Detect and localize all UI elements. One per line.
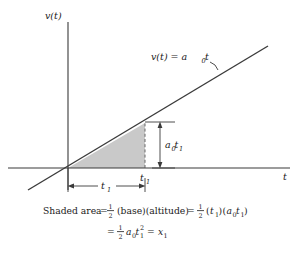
caption-line-2: = 1 2 a 0 t 1 2 = x 1 (107, 224, 168, 241)
svg-text:1: 1 (140, 232, 144, 240)
equation-leader-line (210, 62, 218, 70)
svg-text:1: 1 (179, 145, 183, 153)
svg-text:=: = (100, 205, 108, 216)
svg-text:1: 1 (118, 224, 122, 232)
svg-text:2: 2 (140, 224, 144, 232)
line-equation-label: v(t)=a 0 t (151, 51, 218, 70)
caption-fraction-half-1: 1 2 (107, 203, 114, 220)
svg-text:t: t (136, 226, 140, 237)
svg-text:=: = (147, 226, 155, 237)
svg-text:t: t (210, 205, 214, 216)
svg-text:v(t)=a: v(t)=a (151, 51, 188, 62)
velocity-time-diagram: v(t) t t 1 v(t)=a 0 t (0, 0, 307, 256)
svg-text:a: a (165, 139, 171, 150)
svg-text:a: a (126, 226, 131, 237)
svg-text:Shaded area: Shaded area (43, 205, 102, 216)
svg-text:t: t (205, 51, 209, 62)
caption-line-1: Shaded area = 1 2 (base)(altitude) = 1 2… (43, 203, 248, 220)
svg-text:1: 1 (108, 203, 112, 211)
shaded-triangle-area (68, 123, 145, 168)
svg-text:=: = (107, 226, 115, 237)
horizontal-measure-label: t 1 (98, 178, 116, 194)
svg-text:1: 1 (107, 186, 111, 194)
svg-text:1: 1 (146, 178, 150, 186)
caption-fraction-half-2: 1 2 (197, 203, 204, 220)
svg-text:t: t (101, 180, 105, 191)
svg-text:t: t (140, 172, 144, 183)
svg-text:2: 2 (198, 212, 202, 220)
svg-text:(base)(altitude): (base)(altitude) (117, 205, 189, 216)
svg-text:2: 2 (108, 212, 112, 220)
svg-text:1: 1 (164, 232, 168, 240)
svg-text:): ) (244, 205, 248, 216)
svg-text:t: t (236, 205, 240, 216)
x-axis-label: t (283, 171, 287, 182)
figure-container: v(t) t t 1 v(t)=a 0 t (0, 0, 307, 256)
caption-fraction-half-3: 1 2 (117, 224, 124, 241)
svg-text:t: t (175, 139, 179, 150)
svg-text:2: 2 (118, 233, 122, 241)
vertical-measure-label: a 0 t 1 (165, 139, 183, 153)
svg-text:a: a (227, 205, 232, 216)
y-axis-label: v(t) (45, 10, 62, 21)
svg-text:=: = (187, 205, 195, 216)
svg-text:1: 1 (198, 203, 202, 211)
